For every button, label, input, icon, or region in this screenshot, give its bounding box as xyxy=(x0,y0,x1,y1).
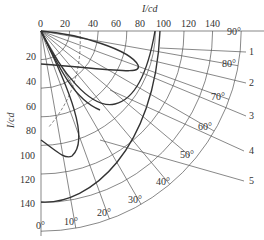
curve-1 xyxy=(41,31,138,71)
tick-left-80: 80 xyxy=(26,125,36,136)
polar-intensity-diagram: 0 20 40 60 80 100 120 140 I/cd 20 40 60 … xyxy=(0,0,264,240)
left-tick-labels: 20 40 60 80 100 120 140 I/cd xyxy=(5,51,36,209)
angle-50: 50° xyxy=(180,149,194,160)
intensity-curves xyxy=(41,31,160,202)
angle-90: 90° xyxy=(227,26,241,37)
angle-30: 30° xyxy=(128,194,142,205)
tick-left-60: 60 xyxy=(26,101,36,112)
tick-left-100: 100 xyxy=(20,150,35,161)
tick-top-60: 60 xyxy=(111,18,121,29)
tick-left-20: 20 xyxy=(26,51,36,62)
unit-label-top: I/cd xyxy=(141,3,159,14)
angle-80: 80° xyxy=(222,58,236,69)
tick-top-20: 20 xyxy=(60,18,70,29)
angle-70: 70° xyxy=(211,91,225,102)
tick-top-100: 100 xyxy=(156,18,171,29)
tick-top-80: 80 xyxy=(135,18,145,29)
curve-label-1: 1 xyxy=(249,46,254,57)
curve-label-3: 3 xyxy=(249,110,254,121)
tick-left-40: 40 xyxy=(26,76,36,87)
tick-top-120: 120 xyxy=(181,18,196,29)
curve-label-2: 2 xyxy=(249,77,254,88)
curve-3 xyxy=(41,31,160,202)
curve-number-labels: 1 2 3 4 5 xyxy=(249,46,254,186)
angle-20: 20° xyxy=(97,207,111,218)
angle-10: 10° xyxy=(64,216,78,227)
angle-40: 40° xyxy=(156,176,170,187)
top-tick-labels: 0 20 40 60 80 100 120 140 I/cd xyxy=(38,3,220,29)
angle-60: 60° xyxy=(198,121,212,132)
tick-left-140: 140 xyxy=(20,198,35,209)
tick-top-0: 0 xyxy=(38,18,43,29)
tick-top-140: 140 xyxy=(205,18,220,29)
curve-label-5: 5 xyxy=(249,175,254,186)
unit-label-left: I/cd xyxy=(5,111,16,129)
tick-top-40: 40 xyxy=(88,18,98,29)
angle-0: 0° xyxy=(36,220,45,231)
tick-left-120: 120 xyxy=(20,174,35,185)
curve-label-4: 4 xyxy=(249,145,254,156)
